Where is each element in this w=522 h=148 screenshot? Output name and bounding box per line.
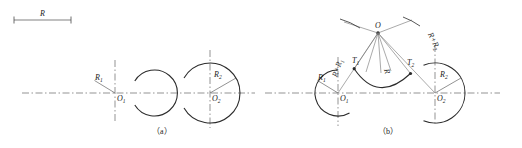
panel-a-left-radius-leader	[95, 81, 116, 94]
panel-b-right-center-label: O2	[437, 95, 446, 103]
panel-a-right-radius-label: R2	[214, 71, 222, 79]
panel-a-caption: （a）	[152, 128, 172, 136]
technical-drawing-figure: .arc { fill:none; stroke:#2b2b2b; stroke…	[0, 0, 522, 148]
panel-b-right-radius-label: R2	[440, 71, 448, 79]
construction-radius-right	[378, 33, 411, 74]
construction-ray-upper-right	[378, 20, 412, 33]
construction-radius-mid	[378, 33, 381, 73]
scale-bar-label: R	[40, 10, 45, 18]
tangent-point-T2-label: T2	[407, 59, 414, 67]
panel-b-left-center-label: O1	[340, 95, 349, 103]
panel-b-right-radius-leader	[435, 78, 461, 93]
tangent-point-T2	[409, 72, 412, 75]
tangent-point-T1-label: T1	[352, 57, 359, 65]
construction-radius-mid-left	[366, 33, 378, 72]
panel-b-caption: （b）	[378, 128, 398, 136]
panel-a-right-center-label: O2	[212, 95, 221, 103]
construction-ray-upper-left	[344, 22, 378, 33]
compass-arc-left	[340, 19, 360, 28]
compass-arc-right	[403, 17, 420, 26]
tangent-point-T1	[353, 67, 356, 70]
panel-a-left-radius-label: R1	[95, 74, 103, 82]
panel-a-left-center-label: O1	[117, 95, 126, 103]
panel-a-geometry	[22, 50, 255, 128]
panel-b-left-radius-label: R1	[318, 74, 326, 82]
panel-b-left-radius-leader	[318, 81, 339, 94]
panel-a-right-radius-leader	[210, 78, 236, 93]
construction-center-label: O	[375, 22, 381, 30]
construction-radius-blend-R	[378, 33, 391, 71]
